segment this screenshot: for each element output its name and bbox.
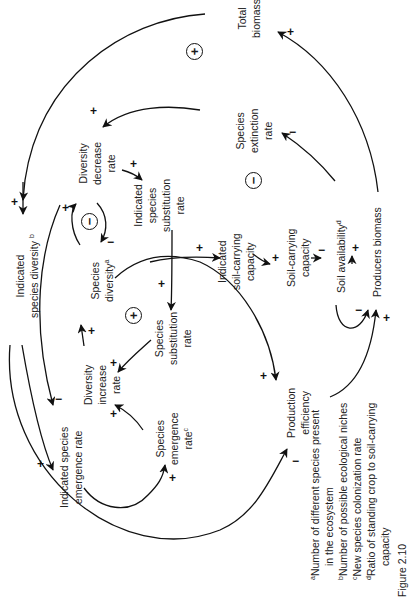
node-text: substitution — [159, 179, 173, 232]
node-indicated-soil-carrying-capacity: Indicated soil-carrying capacity — [215, 233, 257, 290]
sign-plus: + — [158, 278, 165, 290]
node-text: Soil availability — [335, 224, 347, 293]
footnote-a-cont: in the ecosystem — [322, 403, 336, 580]
node-text: Indicated — [13, 234, 27, 318]
node-text: rate — [173, 179, 187, 232]
node-text: emergence rate — [71, 427, 85, 508]
node-text: Soil-carrying — [284, 229, 298, 287]
footnote-marker: c — [351, 577, 358, 581]
footnote-text: Number of possible ecological niches — [337, 403, 349, 576]
footnote-text: capacity — [379, 527, 391, 566]
footnote-text: New species colonization rate — [351, 438, 363, 577]
link-diversity-to-soil-indicator — [150, 257, 220, 262]
sign-plus: + — [90, 105, 97, 117]
footnote-marker: a — [103, 260, 110, 264]
node-text: increase — [95, 365, 109, 405]
footnote-a: aNumber of different species present — [308, 403, 322, 580]
link-indicated-emergence-to-emergence — [84, 465, 165, 508]
node-text: species — [145, 179, 159, 232]
sign-plus: + — [11, 196, 18, 208]
node-text: Species — [88, 260, 102, 302]
node-total-biomass: Total biomass — [235, 0, 263, 38]
footnote-marker: d — [335, 220, 342, 224]
sign-plus: + — [352, 242, 359, 254]
link-production-to-producers — [330, 310, 376, 397]
node-species-substitution-rate: Species substitution rate — [152, 312, 194, 365]
footnote-text: Ratio of standing crop to soil-carrying — [365, 403, 377, 576]
node-species-extinction-rate: Species extinction rate — [233, 109, 275, 153]
link-emergence-to-increase — [115, 405, 143, 430]
sign-minus: − — [292, 455, 299, 467]
sign-plus: + — [272, 252, 279, 264]
figure-caption: Figure 2.10 — [395, 544, 409, 597]
node-text: capacity — [298, 229, 312, 287]
link-indicated-diversity-to-indicated-emergence — [22, 345, 53, 470]
sign-plus: + — [62, 202, 69, 214]
node-text: decrease — [90, 142, 104, 185]
node-indicated-species-diversity: Indicated species diversity b — [13, 234, 41, 318]
footnote-text: in the ecosystem — [323, 487, 335, 566]
link-outer-to-production — [9, 345, 287, 539]
link-decrease-to-diversity — [97, 203, 106, 242]
loop-outer-polarity: + — [186, 43, 203, 60]
node-text: Species — [153, 412, 167, 465]
node-text: rate — [109, 365, 123, 405]
node-text: rate — [180, 312, 194, 365]
footnote-marker: d — [365, 576, 372, 580]
node-text: rate — [104, 142, 118, 185]
node-text: biomass — [249, 0, 263, 38]
sign-plus: + — [383, 312, 390, 324]
node-text: extinction — [247, 109, 261, 153]
node-text: emergence — [167, 412, 181, 465]
footnote-d-cont: capacity — [378, 403, 392, 580]
node-indicated-species-emergence-rate: Indicated species emergence rate — [57, 427, 85, 508]
node-indicated-species-substitution-rate: Indicated species substitution rate — [131, 179, 187, 232]
sign-plus: + — [196, 242, 203, 254]
sign-plus: + — [287, 26, 294, 38]
link-producers-to-total-biomass — [278, 32, 378, 192]
node-text: rate — [182, 431, 194, 449]
footnote-text: Number of different species present — [309, 410, 321, 576]
node-text: Diversity — [81, 365, 95, 405]
node-text: Species — [233, 109, 247, 153]
node-text: Indicated species — [57, 427, 71, 508]
sign-plus: + — [169, 472, 176, 484]
sign-minus: − — [107, 236, 114, 248]
sign-plus: + — [110, 357, 117, 369]
node-text: Producers biomass — [370, 207, 384, 297]
node-text: Indicated — [131, 179, 145, 232]
node-diversity-decrease-rate: Diversity decrease rate — [76, 142, 118, 185]
loop-substitution-polarity: + — [125, 307, 142, 324]
sign-plus: + — [260, 370, 267, 382]
footnotes: aNumber of different species present in … — [308, 403, 392, 580]
node-soil-availability: Soil availabilityd — [334, 220, 348, 293]
loop-diversity-balance-polarity: − — [81, 213, 98, 230]
node-text: diversity — [103, 263, 115, 302]
node-text: Total — [235, 0, 249, 38]
sign-minus: − — [55, 393, 62, 405]
sign-plus: + — [88, 325, 95, 337]
node-species-emergence-rate: Species emergence ratec — [153, 412, 195, 465]
node-text: Diversity — [76, 142, 90, 185]
node-text: rate — [261, 109, 275, 153]
node-text: species diversity — [28, 241, 40, 318]
footnote-b: bNumber of possible ecological niches — [336, 403, 350, 580]
node-text: soil-carrying — [229, 233, 243, 290]
node-text: Species — [152, 312, 166, 365]
node-text: Production — [284, 388, 298, 438]
node-species-diversity: Species diversitya — [88, 260, 116, 302]
footnote-d: dRatio of standing crop to soil-carrying — [364, 403, 378, 580]
node-text: capacity — [243, 233, 257, 290]
sign-plus: + — [130, 158, 137, 170]
node-producers-biomass: Producers biomass — [370, 207, 384, 297]
sign-minus: − — [318, 244, 325, 256]
node-soil-carrying-capacity: Soil-carrying capacity — [284, 229, 312, 287]
footnote-marker: c — [182, 428, 189, 432]
footnote-marker: a — [309, 576, 316, 580]
link-availability-to-producers — [336, 305, 368, 328]
link-increase-to-diversity — [81, 325, 84, 346]
sign-plus: + — [37, 458, 44, 470]
link-soil-to-extinction — [283, 64, 335, 133]
footnote-marker: b — [28, 234, 35, 238]
link-to-extinction-rate — [282, 133, 335, 181]
